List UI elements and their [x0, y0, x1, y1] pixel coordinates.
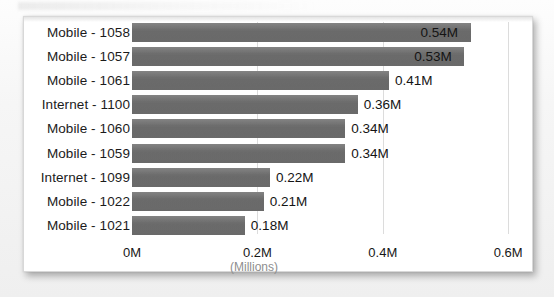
bar-row[interactable]: Mobile - 10220.21M [24, 192, 532, 211]
category-label: Mobile - 1060 [0, 119, 130, 138]
bar-shading [132, 144, 345, 163]
category-label: Mobile - 1057 [0, 47, 130, 66]
page-background: Mobile - 10580.54MMobile - 10570.53MMobi… [0, 0, 554, 297]
category-label: Mobile - 1059 [0, 144, 130, 163]
bar-value-label: 0.34M [351, 119, 389, 138]
bar-shading [132, 216, 245, 235]
bar-row[interactable]: Mobile - 10570.53M [24, 47, 532, 66]
bar-row[interactable]: Internet - 11000.36M [24, 95, 532, 114]
category-label: Mobile - 1022 [0, 192, 130, 211]
x-axis-tick-label: 0.2M [243, 245, 272, 260]
bar[interactable] [132, 119, 345, 138]
bar-value-label: 0.54M [421, 23, 459, 42]
category-label: Mobile - 1061 [0, 71, 130, 90]
bar-shading [132, 71, 389, 90]
bar-row[interactable]: Internet - 10990.22M [24, 168, 532, 187]
category-label: Mobile - 1021 [0, 216, 130, 235]
chart-panel: Mobile - 10580.54MMobile - 10570.53MMobi… [23, 16, 533, 272]
bar-chart-plot-area: Mobile - 10580.54MMobile - 10570.53MMobi… [24, 17, 532, 271]
bar-shading [132, 168, 270, 187]
bar-row[interactable]: Mobile - 10590.34M [24, 144, 532, 163]
category-label: Internet - 1100 [0, 95, 130, 114]
category-label: Mobile - 1058 [0, 23, 130, 42]
bar-value-label: 0.41M [395, 71, 433, 90]
bar-row[interactable]: Mobile - 10580.54M [24, 23, 532, 42]
bar[interactable] [132, 144, 345, 163]
bar-value-label: 0.22M [276, 168, 314, 187]
bar-shading [132, 119, 345, 138]
bar-value-label: 0.36M [364, 95, 402, 114]
bar-value-label: 0.18M [251, 216, 289, 235]
x-axis-tick-label: 0M [123, 245, 141, 260]
bar[interactable] [132, 71, 389, 90]
x-axis-title: (Millions) [24, 260, 532, 274]
bar-value-label: 0.21M [270, 192, 308, 211]
bar-value-label: 0.53M [414, 47, 452, 66]
bar[interactable] [132, 216, 245, 235]
bar-shading [132, 95, 358, 114]
bar-row[interactable]: Mobile - 10610.41M [24, 71, 532, 90]
bar[interactable] [132, 192, 264, 211]
bar[interactable] [132, 95, 358, 114]
bar-value-label: 0.34M [351, 144, 389, 163]
bar-shading [132, 192, 264, 211]
bar-row[interactable]: Mobile - 10210.18M [24, 216, 532, 235]
bar[interactable] [132, 168, 270, 187]
x-axis-tick-label: 0.4M [368, 245, 397, 260]
bar-row[interactable]: Mobile - 10600.34M [24, 119, 532, 138]
scan-artifact [18, 2, 318, 10]
category-label: Internet - 1099 [0, 168, 130, 187]
x-axis-tick-label: 0.6M [494, 245, 523, 260]
